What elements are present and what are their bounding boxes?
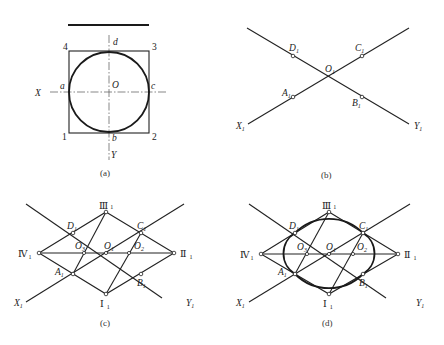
point-I1: [327, 292, 331, 296]
label-corner-3: 3: [152, 42, 157, 52]
label-IV1: Ⅳ1: [18, 249, 32, 260]
label-D1: D1: [66, 221, 77, 232]
point-C1: [360, 54, 364, 58]
label-d: d: [113, 37, 118, 47]
label-A1: A1: [281, 88, 291, 99]
label-III1: Ⅲ1: [322, 201, 336, 211]
label-Y: Y: [111, 150, 118, 160]
label-O: O: [112, 80, 119, 90]
label-A1: A1: [54, 267, 64, 278]
label-D1: D1: [288, 43, 299, 54]
point-IV1: [259, 252, 263, 256]
point-A1: [293, 272, 297, 276]
label-C1: C1: [359, 221, 368, 232]
point-C1: [139, 231, 143, 235]
label-IV1: Ⅳ1: [240, 250, 254, 261]
label-O3: O3: [297, 242, 307, 253]
label-corner-1: 1: [62, 132, 67, 142]
label-corner-4: 4: [63, 42, 68, 52]
isometric-circle-construction-figure: 4 3 1 2 d a c b O X Y (a) D1 C1 A1 B1 O1…: [0, 0, 444, 345]
label-D1: D1: [288, 221, 299, 232]
label-corner-2: 2: [152, 132, 157, 142]
point-C1: [361, 231, 365, 235]
point-O2: [351, 252, 354, 255]
point-B1: [139, 272, 143, 276]
panel-c: Ⅲ1 Ⅰ1 Ⅳ1 Ⅱ1 D1 C1 A1 B1 O3 O1 O2 X1 Y1 (…: [13, 201, 194, 328]
caption-b: (b): [321, 170, 332, 180]
label-C1: C1: [137, 221, 146, 232]
point-A1: [71, 272, 75, 276]
label-Y1: Y1: [416, 298, 424, 309]
label-B1: B1: [359, 278, 368, 289]
panel-d: Ⅲ1 Ⅰ1 Ⅳ1 Ⅱ1 D1 C1 A1 B1 O3 O1 O2 X1 Y1 (…: [235, 201, 424, 328]
label-II1: Ⅱ1: [404, 250, 416, 261]
label-C1: C1: [355, 43, 364, 54]
label-B1: B1: [352, 98, 361, 109]
panel-a: 4 3 1 2 d a c b O X Y (a): [34, 25, 166, 178]
label-X1: X1: [235, 121, 245, 132]
point-O2: [127, 251, 130, 254]
label-Y1: Y1: [186, 298, 194, 309]
label-O2: O2: [134, 241, 144, 252]
point-A1: [291, 95, 295, 99]
label-X1: X1: [235, 298, 245, 309]
point-II1: [396, 252, 400, 256]
point-O1: [327, 252, 330, 255]
label-X: X: [34, 88, 42, 98]
label-O3: O3: [75, 241, 85, 252]
point-B1: [360, 95, 364, 99]
caption-a: (a): [100, 168, 110, 178]
caption-d: (d): [322, 318, 333, 328]
point-D1: [291, 54, 295, 58]
panel-b: D1 C1 A1 B1 O1 X1 Y1 (b): [235, 28, 422, 180]
label-II1: Ⅱ1: [180, 249, 192, 260]
point-II1: [172, 251, 176, 255]
label-B1: B1: [137, 278, 146, 289]
label-O2: O2: [357, 242, 367, 253]
point-I1: [104, 292, 108, 296]
label-b: b: [112, 133, 117, 143]
label-a: a: [60, 81, 65, 91]
label-III1: Ⅲ1: [99, 201, 113, 211]
label-O1: O1: [325, 64, 335, 75]
caption-c: (c): [100, 318, 110, 328]
label-I1: Ⅰ1: [323, 299, 333, 310]
label-O1: O1: [104, 241, 114, 252]
point-B1: [361, 272, 365, 276]
point-O1: [104, 251, 107, 254]
label-Y1: Y1: [414, 121, 422, 132]
label-X1: X1: [13, 298, 23, 309]
label-O1: O1: [326, 242, 336, 253]
label-I1: Ⅰ1: [100, 299, 110, 310]
point-IV1: [37, 251, 41, 255]
label-c: c: [151, 81, 156, 91]
